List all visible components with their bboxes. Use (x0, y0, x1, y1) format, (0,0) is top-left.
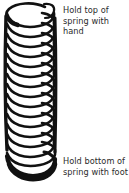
caption-top: Hold top of spring with hand (63, 5, 129, 37)
caption-bottom: Hold bottom of spring with foot (63, 156, 129, 177)
spring-illustration (0, 0, 62, 193)
illustration-page: Hold top of spring with hand Hold bottom… (0, 0, 129, 193)
